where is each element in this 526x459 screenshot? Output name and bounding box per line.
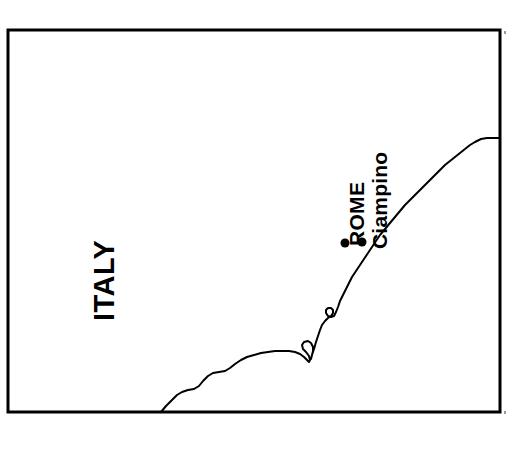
map-canvas <box>0 0 526 459</box>
map-figure: ITALY ROME Ciampino <box>0 0 526 459</box>
airport-label-ciampino: Ciampino <box>369 152 390 249</box>
corner-tick-top-right <box>504 31 506 34</box>
city-label-rome: ROME <box>346 182 367 246</box>
corner-tick-bottom-right <box>504 411 506 414</box>
country-label-italy: ITALY <box>90 240 119 321</box>
map-background <box>0 0 526 459</box>
